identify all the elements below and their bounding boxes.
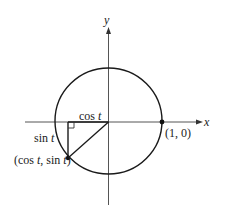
diagram-svg — [0, 0, 234, 209]
point-open-text: (cos — [14, 153, 37, 167]
x-axis-label: x — [204, 116, 209, 128]
y-axis-arrow-icon — [106, 27, 111, 34]
sin-t-label: sin t — [34, 132, 54, 144]
point-mid-text: , sin — [40, 153, 63, 167]
point-close-text: ) — [67, 153, 71, 167]
unit-circle-diagram: y x cos t sin t (cos t, sin t) (1, 0) — [0, 0, 234, 209]
cos-t-label: cos t — [79, 110, 101, 122]
right-angle-marker — [68, 122, 74, 128]
cos-text: cos — [79, 109, 98, 123]
sin-var: t — [51, 131, 54, 145]
point-one-zero — [160, 120, 165, 125]
point-coordinates-label: (cos t, sin t) — [14, 154, 71, 166]
cos-var: t — [98, 109, 101, 123]
y-axis-label: y — [104, 14, 109, 26]
sin-text: sin — [34, 131, 51, 145]
unit-point-label: (1, 0) — [165, 127, 191, 139]
x-axis-arrow-icon — [196, 120, 203, 125]
